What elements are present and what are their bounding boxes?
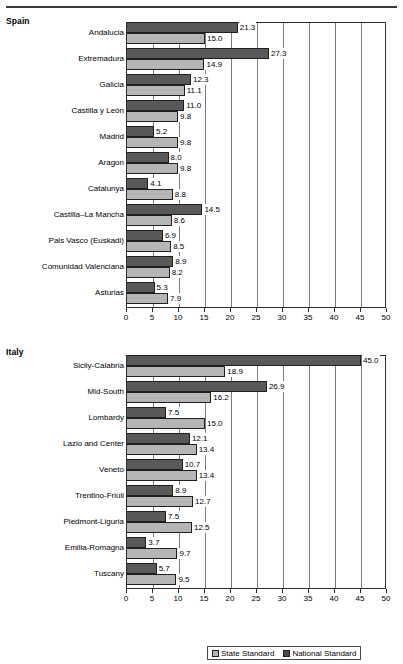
category-group: Catalunya4.18.8	[0, 178, 403, 204]
bar-national	[127, 204, 202, 215]
bar-line: 8.9	[0, 485, 403, 496]
axis-tick	[360, 308, 361, 312]
bar-line: 12.1	[0, 433, 403, 444]
category-group: Madrid5.29.8	[0, 126, 403, 152]
category-group: Piedmont-Liguria7.512.5	[0, 511, 403, 537]
bar-national	[127, 126, 154, 137]
bar-line: 14.9	[0, 59, 403, 70]
axis-tick-label: 45	[356, 313, 365, 322]
axis-tick	[334, 308, 335, 312]
axis-tick-label: 5	[150, 594, 154, 603]
bar-rows: Sicily-Calabria45.018.9Mid-South26.916.2…	[0, 355, 403, 589]
bar-value-label: 6.9	[164, 230, 177, 241]
axis-tick-label: 15	[200, 313, 209, 322]
bar-state	[127, 470, 197, 481]
axis-tick-label: 5	[150, 313, 154, 322]
bar-value-label: 27.3	[270, 48, 288, 59]
bar-state	[127, 241, 171, 252]
bar-state	[127, 189, 173, 200]
bar-state	[127, 85, 185, 96]
bar-value-label: 9.8	[179, 163, 192, 174]
axis-tick	[308, 308, 309, 312]
bar-national	[127, 433, 190, 444]
bar-value-label: 8.6	[173, 215, 186, 226]
chart-legend: State StandardNational Standard	[207, 646, 361, 660]
bar-national	[127, 355, 361, 366]
axis-tick	[126, 589, 127, 593]
axis-tick	[204, 308, 205, 312]
bar-national	[127, 22, 238, 33]
header-rule	[6, 6, 397, 8]
bar-national	[127, 407, 166, 418]
bar-national	[127, 511, 166, 522]
category-group: Veneto10.713.4	[0, 459, 403, 485]
bar-line: 5.3	[0, 282, 403, 293]
axis-tick	[230, 308, 231, 312]
category-group: Aragon8.09.8	[0, 152, 403, 178]
bar-line: 21.3	[0, 22, 403, 33]
bar-line: 45.0	[0, 355, 403, 366]
axis-tick-label: 10	[174, 594, 183, 603]
category-group: Castilla y León11.09.8	[0, 100, 403, 126]
bar-line: 8.2	[0, 267, 403, 278]
bar-value-label: 16.2	[212, 392, 230, 403]
bar-value-label: 8.9	[174, 256, 187, 267]
legend-item: National Standard	[283, 649, 356, 658]
bar-state	[127, 574, 176, 585]
bar-value-label: 3.7	[147, 537, 160, 548]
legend-swatch-national	[283, 650, 290, 657]
axis-tick	[282, 308, 283, 312]
axis-tick	[152, 308, 153, 312]
category-group: Emilia-Romagna3.79.7	[0, 537, 403, 563]
axis-tick-label: 35	[304, 594, 313, 603]
chart-panel-italy: Sicily-Calabria45.018.9Mid-South26.916.2…	[0, 355, 403, 655]
bar-line: 15.0	[0, 418, 403, 429]
category-group: Pais Vasco (Euskadi)6.98.5	[0, 230, 403, 256]
bar-value-label: 8.2	[171, 267, 184, 278]
axis-tick	[282, 589, 283, 593]
bar-value-label: 5.7	[158, 563, 171, 574]
legend-label: State Standard	[221, 649, 274, 658]
bar-value-label: 15.0	[206, 33, 224, 44]
bar-line: 8.8	[0, 189, 403, 200]
bar-line: 6.9	[0, 230, 403, 241]
bar-line: 9.8	[0, 163, 403, 174]
bar-value-label: 14.9	[205, 59, 223, 70]
axis-tick-label: 40	[330, 594, 339, 603]
bar-line: 18.9	[0, 366, 403, 377]
bar-value-label: 45.0	[362, 355, 380, 366]
bar-line: 9.8	[0, 137, 403, 148]
bar-line: 13.4	[0, 444, 403, 455]
bar-line: 8.5	[0, 241, 403, 252]
bar-state	[127, 267, 170, 278]
axis-tick-label: 35	[304, 313, 313, 322]
axis-tick	[126, 308, 127, 312]
bar-state	[127, 496, 193, 507]
bar-value-label: 9.5	[177, 574, 190, 585]
category-group: Asturias5.37.9	[0, 282, 403, 308]
bar-value-label: 13.4	[198, 470, 216, 481]
bar-line: 7.9	[0, 293, 403, 304]
axis-tick-label: 50	[382, 313, 391, 322]
bar-line: 12.3	[0, 74, 403, 85]
bar-value-label: 11.1	[186, 85, 203, 96]
bar-line: 26.9	[0, 381, 403, 392]
bar-value-label: 14.5	[203, 204, 221, 215]
bar-value-label: 18.9	[226, 366, 244, 377]
legend-label: National Standard	[292, 649, 356, 658]
bar-value-label: 8.5	[172, 241, 185, 252]
bar-value-label: 21.3	[239, 22, 257, 33]
axis-tick	[334, 589, 335, 593]
category-group: Sicily-Calabria45.018.9	[0, 355, 403, 381]
category-group: Mid-South26.916.2	[0, 381, 403, 407]
bar-state	[127, 163, 178, 174]
bar-line: 8.0	[0, 152, 403, 163]
bar-value-label: 9.8	[179, 111, 192, 122]
axis-tick-label: 40	[330, 313, 339, 322]
category-group: Lombardy7.515.0	[0, 407, 403, 433]
bar-line: 5.2	[0, 126, 403, 137]
category-group: Extremadura27.314.9	[0, 48, 403, 74]
legend-item: State Standard	[212, 649, 274, 658]
bar-value-label: 7.5	[167, 407, 180, 418]
bar-line: 3.7	[0, 537, 403, 548]
